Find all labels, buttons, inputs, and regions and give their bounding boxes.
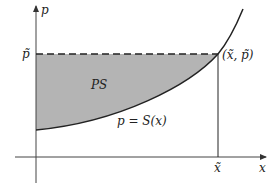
supply-curve-label: p = S(x) [117,114,167,128]
y-axis-label: p [41,3,49,17]
equilibrium-point-label: (x̃, p̃) [222,48,254,62]
ps-label: PS [90,78,107,92]
x-tilde-label: x̃ [214,161,221,175]
producer-surplus-diagram: p x p̃ x̃ PS p = S(x) (x̃, p̃) [0,0,277,185]
x-axis-label: x [259,161,266,175]
p-tilde-label: p̃ [22,47,30,61]
